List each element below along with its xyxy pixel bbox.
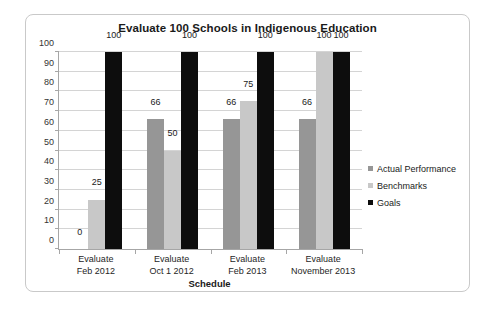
legend-swatch-icon <box>368 166 373 171</box>
bar-value-label: 25 <box>92 177 102 188</box>
bar[interactable] <box>164 151 181 250</box>
y-axis-tick-label: 40 <box>24 157 54 166</box>
bar[interactable] <box>181 52 198 249</box>
x-axis-category-line: November 2013 <box>285 266 361 278</box>
bar-slot: 50 <box>164 52 181 249</box>
y-axis-tick-label: 90 <box>24 58 54 67</box>
y-axis-tick-label: 80 <box>24 78 54 87</box>
y-axis-tick-label: 20 <box>24 196 54 205</box>
x-axis-category-line: Evaluate <box>134 254 210 266</box>
bar-slot: 100 <box>181 52 198 249</box>
bar[interactable] <box>105 52 122 249</box>
bar-slot: 0 <box>71 52 88 249</box>
x-axis-title: Schedule <box>58 278 361 289</box>
bar-slot: 100 <box>105 52 122 249</box>
legend-label: Goals <box>377 198 401 208</box>
y-axis-tick-label: 60 <box>24 117 54 126</box>
legend-swatch-icon <box>368 183 373 188</box>
legend-label: Benchmarks <box>377 181 427 191</box>
y-axis-tick-label: 0 <box>24 236 54 245</box>
bar-slot: 66 <box>223 52 240 249</box>
bar-slot: 25 <box>88 52 105 249</box>
bar-value-label: 66 <box>151 96 161 107</box>
bar[interactable] <box>240 101 257 249</box>
bar-value-label: 66 <box>302 96 312 107</box>
x-axis-category-line: Evaluate <box>285 254 361 266</box>
y-axis-tick-label: 10 <box>24 216 54 225</box>
bar-value-label: 100 <box>258 29 273 40</box>
chart-frame: Evaluate 100 Schools in Indigenous Educa… <box>25 14 470 292</box>
bar[interactable] <box>333 52 350 249</box>
x-axis-category-label: EvaluateNovember 2013 <box>285 254 361 277</box>
x-axis-labels: EvaluateFeb 2012EvaluateOct 1 2012Evalua… <box>58 254 361 277</box>
bar-set: 6650100 <box>135 52 211 249</box>
x-axis-category-label: EvaluateFeb 2012 <box>58 254 134 277</box>
bar-value-label: 66 <box>226 96 236 107</box>
bar-value-label: 100 <box>182 29 197 40</box>
x-axis-category-line: Feb 2013 <box>210 266 286 278</box>
bar-slot: 75 <box>240 52 257 249</box>
bar-set: 025100 <box>59 52 135 249</box>
bar-slot: 66 <box>299 52 316 249</box>
bar[interactable] <box>316 52 333 249</box>
bar-value-label: 75 <box>243 79 253 90</box>
bar-value-label: 50 <box>168 128 178 139</box>
x-axis-tick-mark <box>362 249 363 254</box>
legend-label: Actual Performance <box>377 164 456 174</box>
bar-group: 66100100 <box>286 52 362 249</box>
bar-group: 6650100 <box>135 52 211 249</box>
y-axis-tick-label: 30 <box>24 176 54 185</box>
bar-slot: 100 <box>333 52 350 249</box>
bar-groups: 0251006650100667510066100100 <box>59 52 362 249</box>
bar[interactable] <box>299 119 316 249</box>
bar[interactable] <box>88 200 105 249</box>
legend-swatch-icon <box>368 200 373 205</box>
bar-value-label: 100 <box>334 29 349 40</box>
x-axis-category-line: Oct 1 2012 <box>134 266 210 278</box>
y-axis-tick-label: 70 <box>24 98 54 107</box>
chart-title: Evaluate 100 Schools in Indigenous Educa… <box>26 22 469 34</box>
bar-value-label: 100 <box>106 29 121 40</box>
legend-item[interactable]: Actual Performance <box>368 160 456 177</box>
legend-item[interactable]: Benchmarks <box>368 177 456 194</box>
bar[interactable] <box>223 119 240 249</box>
y-axis-tick-label: 100 <box>24 39 54 48</box>
legend-item[interactable]: Goals <box>368 194 456 211</box>
bar-group: 025100 <box>59 52 135 249</box>
bar-slot: 66 <box>147 52 164 249</box>
bar-value-label: 100 <box>317 29 332 40</box>
x-axis-category-label: EvaluateFeb 2013 <box>210 254 286 277</box>
bar-slot: 100 <box>316 52 333 249</box>
bar-value-label: 0 <box>77 226 82 237</box>
x-axis-category-line: Evaluate <box>58 254 134 266</box>
bar-set: 66100100 <box>286 52 362 249</box>
bar[interactable] <box>257 52 274 249</box>
x-axis-category-label: EvaluateOct 1 2012 <box>134 254 210 277</box>
bar-group: 6675100 <box>211 52 287 249</box>
bar-set: 6675100 <box>211 52 287 249</box>
x-axis-category-line: Evaluate <box>210 254 286 266</box>
chart-legend: Actual PerformanceBenchmarksGoals <box>368 160 456 211</box>
x-axis-category-line: Feb 2012 <box>58 266 134 278</box>
bar[interactable] <box>147 119 164 249</box>
bar-slot: 100 <box>257 52 274 249</box>
plot-area: 1009080706050403020100 02510066501006675… <box>58 52 362 250</box>
y-axis-tick-label: 50 <box>24 137 54 146</box>
